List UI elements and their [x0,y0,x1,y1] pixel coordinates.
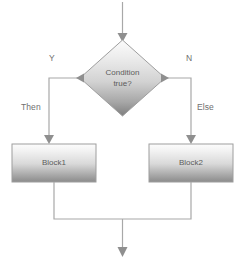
edge-label-then: Then [21,102,41,112]
decision-label-line2: true? [80,79,165,90]
edge-label-yes: Y [49,53,55,63]
edge-label-no: N [186,53,192,63]
flowchart-canvas: Condition true? Block1 Block2 Y N Then E… [0,0,241,264]
block1-node-label: Block1 [12,158,96,168]
decision-label-line1: Condition [80,68,165,79]
edge-label-else: Else [197,102,214,112]
decision-node-label: Condition true? [80,68,165,89]
edge-yes-then [44,74,84,145]
block2-node-label: Block2 [149,158,233,168]
flowchart-graphics [0,0,241,264]
edge-entry [118,2,128,42]
edge-exit [118,219,128,257]
edge-no-else [161,74,196,145]
edge-merge [54,182,191,219]
